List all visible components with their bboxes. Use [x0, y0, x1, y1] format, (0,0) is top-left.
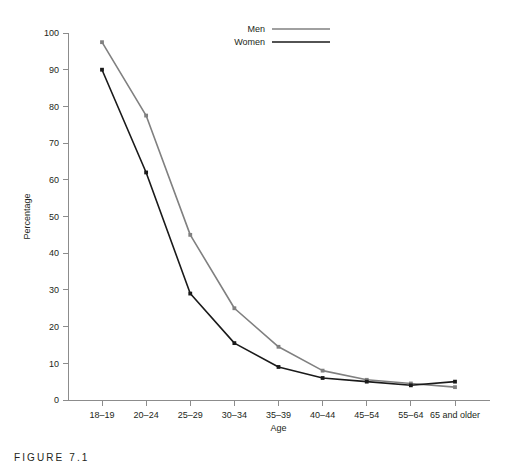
x-tick-label: 40–44	[310, 410, 335, 420]
chart-legend: MenWomen	[234, 24, 330, 47]
y-tick-label: 0	[54, 395, 59, 405]
y-tick-label: 30	[49, 285, 59, 295]
data-point-men-1	[144, 114, 148, 118]
x-tick-label: 25–29	[178, 410, 203, 420]
x-tick-label: 18–19	[89, 410, 114, 420]
x-tick-label: 55–64	[398, 410, 423, 420]
figure-caption: FIGURE 7.1	[14, 452, 89, 463]
data-point-men-3	[232, 306, 236, 310]
data-point-women-7	[409, 383, 413, 387]
x-axis-title: Age	[270, 423, 286, 433]
y-tick-label: 10	[49, 359, 59, 369]
y-tick-label: 20	[49, 322, 59, 332]
y-tick-label: 100	[44, 28, 59, 38]
y-tick-label: 90	[49, 65, 59, 75]
y-tick-label: 40	[49, 248, 59, 258]
x-tick-label: 20–24	[134, 410, 159, 420]
data-point-women-3	[232, 341, 236, 345]
x-tick-label: 30–34	[222, 410, 247, 420]
data-point-women-0	[100, 68, 104, 72]
legend-label-men: Men	[247, 24, 265, 34]
data-point-women-5	[321, 376, 325, 380]
data-point-men-5	[321, 369, 325, 373]
y-tick-label: 70	[49, 138, 59, 148]
legend-label-women: Women	[234, 37, 265, 47]
data-point-men-2	[188, 233, 192, 237]
series-line-men	[102, 42, 455, 387]
x-tick-label: 45–54	[354, 410, 379, 420]
y-tick-label: 80	[49, 102, 59, 112]
x-axis: 18–1920–2425–2930–3435–3940–4445–5455–64…	[68, 400, 490, 420]
y-axis-title: Percentage	[22, 193, 32, 239]
y-tick-label: 50	[49, 212, 59, 222]
data-point-women-4	[277, 365, 281, 369]
figure-container: 0102030405060708090100 18–1920–2425–2930…	[0, 0, 510, 469]
x-tick-label: 35–39	[266, 410, 291, 420]
y-axis: 0102030405060708090100	[44, 28, 68, 405]
data-point-men-0	[100, 40, 104, 44]
y-tick-label: 60	[49, 175, 59, 185]
data-point-men-4	[277, 345, 281, 349]
data-point-women-1	[144, 171, 148, 175]
data-point-women-6	[365, 380, 369, 384]
data-point-women-2	[188, 292, 192, 296]
data-series-group	[100, 40, 457, 389]
x-tick-label: 65 and older	[430, 410, 480, 420]
line-chart: 0102030405060708090100 18–1920–2425–2930…	[0, 0, 510, 440]
series-line-women	[102, 70, 455, 386]
data-point-women-8	[453, 380, 457, 384]
data-point-men-8	[453, 385, 457, 389]
